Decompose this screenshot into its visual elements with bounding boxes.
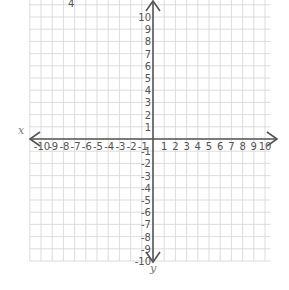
x-tick-label: -6 (82, 141, 92, 152)
x-tick-label: 9 (251, 141, 257, 152)
top-fragment-text: 4 (68, 0, 74, 9)
y-tick-label: -7 (141, 219, 151, 230)
x-tick-label: 8 (239, 141, 245, 152)
x-tick-label: -9 (48, 141, 58, 152)
y-tick-label: -4 (141, 183, 151, 194)
y-tick-label: 8 (145, 36, 151, 47)
y-tick-label: -2 (141, 158, 151, 169)
y-tick-label: -1 (141, 146, 151, 157)
x-tick-label: 5 (206, 141, 212, 152)
x-tick-label: -8 (59, 141, 69, 152)
x-tick-label: 2 (172, 141, 178, 152)
coordinate-plane: -10-9-8-7-6-5-4-3-2-112345678910 1098765… (0, 0, 289, 290)
y-tick-label: 1 (145, 122, 151, 133)
y-tick-label: -9 (141, 244, 151, 255)
y-tick-label: -3 (141, 171, 151, 182)
x-tick-label: 1 (161, 141, 167, 152)
y-tick-label: -10 (135, 256, 151, 267)
x-tick-label: -3 (115, 141, 125, 152)
axes (30, 1, 277, 262)
x-axis-label: x (18, 124, 25, 137)
y-tick-label: 5 (145, 73, 151, 84)
y-tick-label: -5 (141, 195, 151, 206)
x-tick-label: -5 (93, 141, 103, 152)
y-tick-label: 3 (145, 97, 151, 108)
y-axis-label: y (149, 262, 157, 275)
x-tick-label: 4 (195, 141, 201, 152)
x-tick-label: -7 (71, 141, 81, 152)
x-tick-label: 7 (228, 141, 234, 152)
x-tick-label: 6 (217, 141, 223, 152)
x-tick-label: 10 (259, 141, 272, 152)
x-tick-label: -4 (104, 141, 114, 152)
x-tick-label: -2 (127, 141, 137, 152)
y-tick-label: 7 (145, 49, 151, 60)
y-tick-label: 6 (145, 61, 151, 72)
y-tick-label: -8 (141, 232, 151, 243)
y-tick-label: -6 (141, 207, 151, 218)
y-tick-label: 2 (145, 110, 151, 121)
y-tick-label: 10 (138, 12, 151, 23)
x-tick-label: 3 (183, 141, 189, 152)
y-tick-label: 9 (145, 24, 151, 35)
y-tick-label: 4 (145, 85, 151, 96)
